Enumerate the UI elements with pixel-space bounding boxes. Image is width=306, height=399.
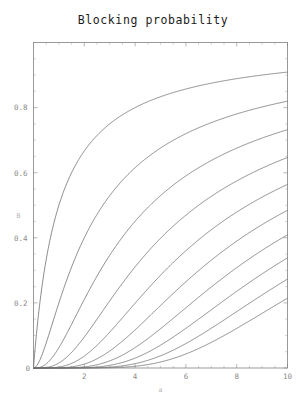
minor-tick-marks [34,43,288,369]
tick-labels: 2468100.20.40.60.80 [14,103,293,381]
x-tick-label: 10 [283,372,293,381]
chart-figure: Blocking probability 2468100.20.40.60.80… [0,0,306,399]
curve-n=7 [34,235,288,368]
curve-n=8 [34,258,288,368]
origin-tick-label: 0 [25,364,30,373]
plot-area: 2468100.20.40.60.80 a B [0,0,306,399]
y-axis-label: B [17,212,21,220]
x-tick-label: 6 [184,372,189,381]
x-tick-label: 4 [133,372,138,381]
curve-n=6 [34,210,288,368]
data-curves [34,72,288,368]
curve-n=5 [34,184,288,368]
y-tick-label: 0.4 [14,234,28,243]
y-tick-label: 0.8 [14,103,28,112]
plot-frame [34,43,288,369]
x-tick-label: 2 [82,372,87,381]
y-tick-label: 0.6 [14,169,28,178]
x-tick-label: 8 [234,372,239,381]
curve-n=4 [34,158,288,368]
major-tick-marks [34,43,288,369]
curve-n=10 [34,298,288,368]
curve-n=2 [34,101,288,368]
y-tick-label: 0.2 [14,299,28,308]
curve-n=3 [34,130,288,368]
x-axis-label: a [159,386,163,394]
